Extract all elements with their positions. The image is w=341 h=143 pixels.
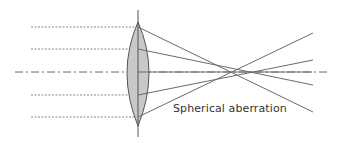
diagram-svg <box>0 0 341 143</box>
spherical-aberration-diagram: Spherical aberration <box>0 0 341 143</box>
refracted-ray-inner-bottom <box>138 60 313 95</box>
refracted-ray-outer-top <box>138 27 313 112</box>
refracted-ray-inner-top <box>138 49 313 85</box>
diagram-caption: Spherical aberration <box>173 102 287 115</box>
